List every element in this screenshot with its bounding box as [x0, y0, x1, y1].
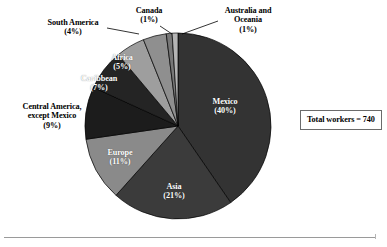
footer-rule-tick: [375, 234, 376, 239]
slice-label-australia-oceania: Australia and Oceania (1%): [212, 6, 284, 34]
leader-line-south-america: [107, 28, 139, 34]
leader-line-canada: [160, 26, 172, 34]
slice-label-canada: Canada (1%): [124, 6, 174, 25]
slice-label-europe: Europe (11%): [94, 148, 146, 167]
slice-label-africa: Africa (5%): [96, 53, 148, 72]
slice-label-mexico: Mexico (40%): [200, 97, 250, 116]
pie-chart-figure: Central America, except Mexico (9%) Sout…: [0, 0, 387, 247]
slice-label-asia: Asia (21%): [151, 182, 197, 201]
slice-label-south-america: South America (4%): [36, 18, 110, 37]
total-workers-box: Total workers = 740: [300, 110, 382, 130]
slice-label-central-america: Central America, except Mexico (9%): [4, 102, 100, 130]
slice-label-caribbean: Caribbean (7%): [66, 74, 132, 93]
footer-rule: [4, 237, 376, 238]
